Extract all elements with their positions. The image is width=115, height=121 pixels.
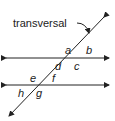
angle-label-f: f (52, 72, 56, 84)
angle-label-b: b (86, 44, 92, 56)
transversal-diagram: transversal a b d c e f h g (0, 0, 115, 121)
transversal-label: transversal (13, 17, 67, 29)
pointer-arrow (77, 23, 89, 33)
angle-label-e: e (30, 72, 36, 84)
angle-label-c: c (74, 60, 80, 72)
angle-label-h: h (18, 87, 24, 99)
angle-label-d: d (55, 60, 62, 72)
angle-label-g: g (36, 87, 43, 99)
angle-label-a: a (65, 44, 71, 56)
